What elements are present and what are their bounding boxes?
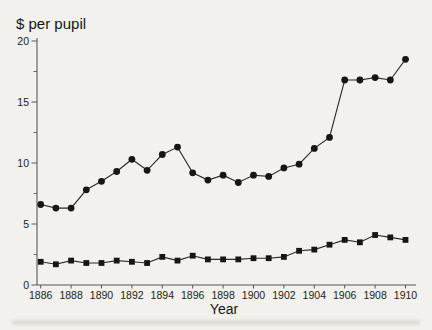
x-tick-label: 1894 — [151, 289, 175, 301]
scanned-figure: $ per pupil 0510152018861888189018921894… — [0, 0, 432, 330]
x-tick-label: 1888 — [59, 289, 83, 301]
data-point-circle — [144, 167, 151, 174]
data-point-circle — [68, 205, 75, 212]
data-point-circle — [235, 179, 242, 186]
x-tick-label: 1900 — [242, 289, 266, 301]
data-point-square — [114, 258, 120, 264]
page-background — [0, 0, 432, 330]
data-point-square — [235, 257, 241, 263]
x-tick-label: 1910 — [394, 289, 418, 301]
x-axis-title: Year — [210, 301, 239, 317]
data-point-square — [403, 237, 409, 243]
data-point-square — [266, 255, 272, 261]
x-tick-label: 1902 — [272, 289, 296, 301]
data-point-square — [296, 248, 302, 254]
data-point-circle — [281, 165, 288, 172]
chart-title: $ per pupil — [16, 15, 86, 32]
data-point-circle — [189, 169, 196, 176]
data-point-circle — [53, 205, 60, 212]
data-point-square — [144, 260, 150, 266]
x-tick-label: 1904 — [303, 289, 327, 301]
data-point-circle — [341, 77, 348, 84]
data-point-circle — [220, 172, 227, 179]
data-point-square — [99, 260, 105, 266]
data-point-square — [327, 242, 333, 248]
y-tick-label: 15 — [17, 96, 29, 108]
data-point-square — [83, 260, 89, 266]
x-tick-label: 1886 — [29, 289, 53, 301]
data-point-square — [68, 258, 74, 264]
y-tick-label: 20 — [17, 35, 29, 47]
x-tick-label: 1896 — [181, 289, 205, 301]
data-point-circle — [174, 144, 181, 151]
x-tick-label: 1908 — [363, 289, 387, 301]
data-point-circle — [37, 201, 44, 208]
data-point-circle — [159, 151, 166, 158]
data-point-circle — [296, 161, 303, 168]
data-point-square — [38, 259, 44, 265]
data-point-circle — [402, 56, 409, 63]
data-point-square — [190, 253, 196, 259]
data-point-square — [205, 257, 211, 263]
data-point-square — [372, 232, 378, 238]
y-tick-label: 5 — [23, 218, 29, 230]
data-point-square — [175, 258, 181, 264]
data-point-circle — [129, 156, 136, 163]
data-point-circle — [265, 173, 272, 180]
data-point-circle — [326, 134, 333, 141]
data-point-square — [129, 259, 135, 265]
data-point-circle — [357, 77, 364, 84]
data-point-circle — [98, 178, 105, 185]
data-point-square — [159, 254, 165, 260]
data-point-square — [311, 247, 317, 253]
data-point-square — [53, 261, 59, 267]
data-point-square — [281, 254, 287, 260]
data-point-circle — [387, 77, 394, 84]
x-tick-label: 1906 — [333, 289, 357, 301]
line-chart: $ per pupil 0510152018861888189018921894… — [0, 0, 432, 330]
data-point-circle — [250, 172, 257, 179]
data-point-circle — [113, 168, 120, 175]
data-point-square — [357, 239, 363, 245]
data-point-square — [387, 235, 393, 241]
data-point-circle — [205, 177, 212, 184]
scan-smudge — [12, 320, 420, 325]
data-point-circle — [311, 145, 318, 152]
data-point-square — [251, 255, 257, 261]
data-point-square — [220, 257, 226, 263]
y-tick-label: 10 — [17, 157, 29, 169]
data-point-square — [342, 237, 348, 243]
data-point-circle — [372, 74, 379, 81]
x-tick-label: 1892 — [120, 289, 144, 301]
data-point-circle — [83, 186, 90, 193]
x-tick-label: 1898 — [211, 289, 235, 301]
x-tick-label: 1890 — [90, 289, 114, 301]
